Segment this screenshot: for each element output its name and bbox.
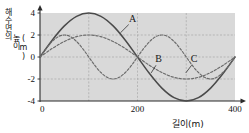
x-tick-label: 400 — [228, 104, 242, 114]
y-axis-arrowhead — [37, 5, 42, 11]
curve-label-c: C — [191, 53, 198, 64]
y-tick-label: 0 — [31, 52, 36, 62]
wave-chart-figure: ABC 420-2-40200400 길이(m) 해수면의 높이 (m) — [0, 0, 249, 133]
x-tick-label: 200 — [131, 104, 145, 114]
y-tick-label: -4 — [28, 96, 36, 106]
curve-label-b: B — [155, 53, 162, 64]
chart-canvas: ABC 420-2-40200400 길이(m) — [0, 0, 249, 133]
x-axis-arrowhead — [241, 98, 247, 103]
y-tick-label: 4 — [31, 8, 36, 18]
curve-label-a: A — [129, 13, 137, 24]
x-axis-title: 길이(m) — [172, 119, 204, 129]
x-tick-label: 0 — [40, 104, 45, 114]
y-tick-label: 2 — [31, 30, 36, 40]
y-tick-label: -2 — [28, 74, 36, 84]
